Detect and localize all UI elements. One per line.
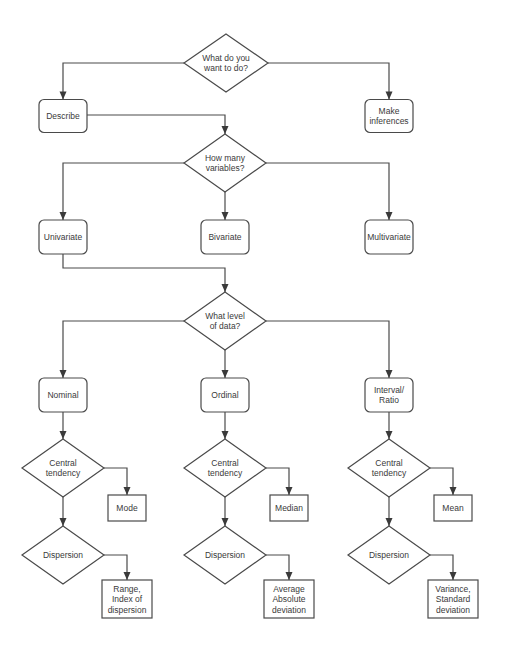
node-median: Median — [270, 495, 308, 521]
node-label: Make — [379, 106, 400, 116]
arrow-icon — [386, 431, 393, 439]
node-label: Central — [211, 458, 239, 468]
arrow-icon — [222, 518, 229, 526]
node-label: Interval/ — [374, 385, 405, 395]
edge-ord_ct-to-median — [266, 468, 289, 495]
node-q_want: What do youwant to do? — [184, 34, 268, 92]
node-univariate: Univariate — [39, 220, 87, 254]
arrow-icon — [60, 370, 67, 378]
node-label: Mode — [116, 503, 138, 513]
edge-describe-to-q_vars — [87, 115, 225, 134]
edge-q_want-to-inferences — [268, 63, 389, 100]
node-label: want to do? — [203, 63, 248, 73]
node-ordinal: Ordinal — [201, 378, 249, 412]
node-label: dispersion — [108, 605, 147, 615]
arrow-icon — [286, 487, 293, 495]
node-label: inferences — [369, 116, 408, 126]
arrow-icon — [450, 487, 457, 495]
node-label: Absolute — [272, 594, 305, 604]
node-avgdev: AverageAbsolutedeviation — [264, 580, 314, 618]
node-label: Range, — [113, 584, 140, 594]
arrow-icon — [60, 212, 67, 220]
edge-nom_ct-to-mode — [104, 468, 127, 495]
node-label: tendency — [208, 468, 243, 478]
node-nominal: Nominal — [39, 378, 87, 412]
arrow-icon — [124, 487, 131, 495]
edge-int_ct-to-mean — [430, 468, 453, 495]
node-label: of data? — [210, 321, 241, 331]
node-int_disp: Dispersion — [348, 526, 430, 584]
node-label: variables? — [206, 163, 245, 173]
arrow-icon — [450, 572, 457, 580]
node-mean: Mean — [434, 495, 472, 521]
node-describe: Describe — [39, 100, 87, 133]
node-interval: Interval/Ratio — [365, 378, 413, 412]
arrow-icon — [222, 431, 229, 439]
node-label: Dispersion — [369, 550, 409, 560]
edge-nom_disp-to-range — [104, 555, 127, 580]
node-bivariate: Bivariate — [201, 220, 249, 254]
node-label: Univariate — [44, 232, 83, 242]
arrow-icon — [60, 518, 67, 526]
arrow-icon — [222, 212, 229, 220]
node-label: Ordinal — [211, 390, 239, 400]
arrow-icon — [386, 92, 393, 100]
node-ord_ct: Centraltendency — [184, 439, 266, 497]
arrow-icon — [286, 572, 293, 580]
node-int_ct: Centraltendency — [348, 439, 430, 497]
node-label: Dispersion — [205, 550, 245, 560]
edge-q_level-to-interval — [266, 321, 389, 378]
arrow-icon — [222, 370, 229, 378]
arrow-icon — [222, 126, 229, 134]
node-label: Central — [375, 458, 403, 468]
arrow-icon — [386, 212, 393, 220]
node-label: Variance, — [435, 584, 470, 594]
node-label: Nominal — [47, 390, 78, 400]
flowchart: What do youwant to do?DescribeMakeinfere… — [0, 0, 507, 652]
arrow-icon — [124, 572, 131, 580]
node-label: Average — [273, 584, 305, 594]
node-q_vars: How manyvariables? — [184, 134, 266, 192]
node-label: Multivariate — [367, 232, 411, 242]
arrow-icon — [60, 92, 67, 100]
node-nom_ct: Centraltendency — [22, 439, 104, 497]
arrow-icon — [386, 518, 393, 526]
node-label: Bivariate — [208, 232, 241, 242]
edge-q_vars-to-multivariate — [266, 163, 389, 220]
node-label: Median — [275, 503, 303, 513]
node-label: How many — [205, 153, 246, 163]
node-label: deviation — [436, 605, 470, 615]
node-label: Describe — [46, 111, 80, 121]
node-variance: Variance,Standarddeviation — [428, 580, 478, 618]
node-q_level: What levelof data? — [184, 292, 266, 350]
node-ord_disp: Dispersion — [184, 526, 266, 584]
node-label: tendency — [372, 468, 407, 478]
edge-q_vars-to-univariate — [63, 163, 184, 220]
node-multivariate: Multivariate — [365, 220, 413, 254]
edge-univariate-to-q_level — [63, 254, 225, 292]
node-label: Mean — [442, 503, 464, 513]
node-label: Index of — [112, 594, 143, 604]
node-range: Range,Index ofdispersion — [102, 580, 152, 618]
node-label: Dispersion — [43, 550, 83, 560]
edge-q_level-to-nominal — [63, 321, 184, 378]
node-label: tendency — [46, 468, 81, 478]
edge-q_want-to-describe — [63, 63, 184, 100]
node-label: Central — [49, 458, 77, 468]
arrow-icon — [60, 431, 67, 439]
node-mode: Mode — [108, 495, 146, 521]
node-label: What level — [205, 311, 245, 321]
node-label: What do you — [202, 53, 250, 63]
arrow-icon — [386, 370, 393, 378]
edge-int_disp-to-variance — [430, 555, 453, 580]
node-inferences: Makeinferences — [365, 100, 413, 133]
node-nom_disp: Dispersion — [22, 526, 104, 584]
edge-ord_disp-to-avgdev — [266, 555, 289, 580]
node-label: Standard — [436, 594, 471, 604]
node-label: Ratio — [379, 395, 399, 405]
arrow-icon — [222, 284, 229, 292]
node-label: deviation — [272, 605, 306, 615]
